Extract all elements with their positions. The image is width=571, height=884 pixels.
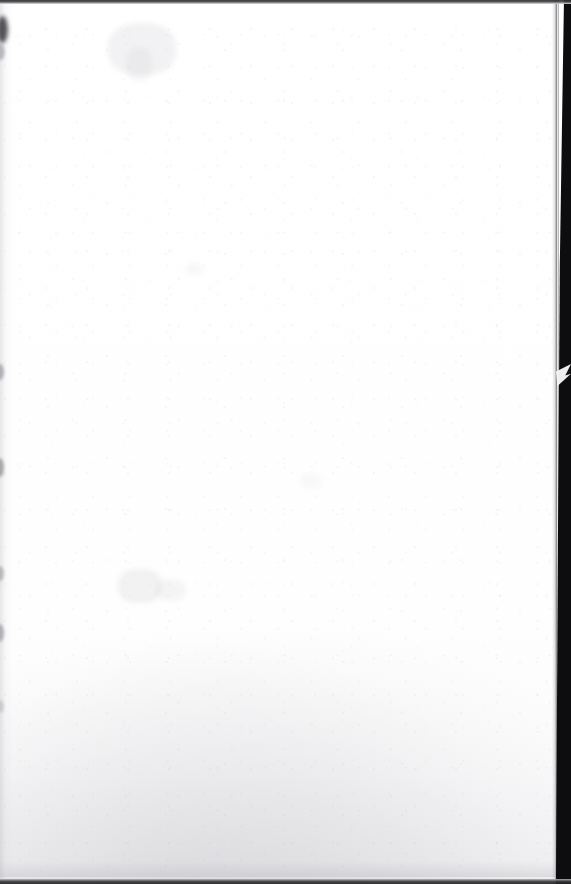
scanner-background-top (0, 0, 571, 4)
show-through-mark (156, 579, 186, 601)
show-through-mark (126, 47, 152, 81)
page-surface (0, 3, 560, 881)
page-bottom-shadow (0, 861, 560, 877)
show-through-mark (300, 473, 322, 489)
scanner-background-right-falloff (552, 0, 557, 884)
show-through-mark (186, 263, 202, 275)
scanner-background-bottom (0, 879, 571, 884)
page-paper-grain (0, 3, 560, 881)
scanned-page-viewport (0, 0, 571, 884)
page-gutter-shadow (0, 0, 13, 884)
